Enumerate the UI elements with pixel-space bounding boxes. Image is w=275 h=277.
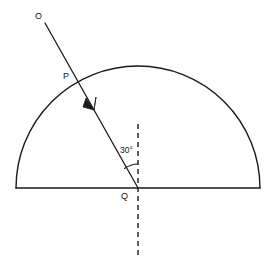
- arrowhead-icon: [83, 97, 96, 110]
- incident-ray-line: [45, 23, 138, 188]
- angle-arc-icon: [125, 164, 139, 169]
- angle-value-label: 30°: [120, 146, 133, 155]
- point-label-o: O: [35, 12, 42, 21]
- point-label-p: P: [63, 72, 69, 81]
- refraction-diagram-figure: O P Q 30°: [0, 0, 275, 277]
- diagram-canvas: [0, 0, 275, 277]
- point-label-q: Q: [121, 192, 128, 201]
